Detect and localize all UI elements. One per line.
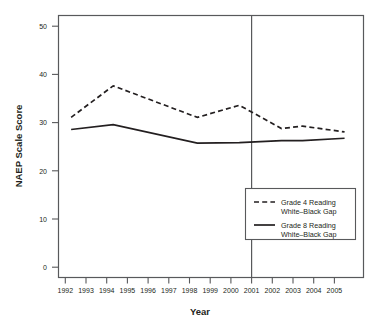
line-chart: 50 40 30 20 10 0 NAEP Scale Score 1992 1… (0, 0, 384, 330)
x-tick-label-2000: 2000 (223, 287, 239, 294)
x-tick-label-2002: 2002 (265, 287, 281, 294)
legend-label-grade-4-line1: Grade 4 Reading (281, 198, 336, 207)
legend-label-grade-8-line1: Grade 8 Reading (281, 221, 336, 230)
y-tick-label-40: 40 (39, 71, 47, 78)
y-tick-label-10: 10 (39, 216, 47, 223)
legend-label-grade-8-line2: White–Black Gap (281, 230, 337, 239)
x-tick-label-1995: 1995 (120, 287, 136, 294)
y-axis-title: NAEP Scale Score (13, 105, 24, 188)
x-tick-label-1998: 1998 (182, 287, 198, 294)
x-tick-label-2001: 2001 (244, 287, 260, 294)
x-axis-ticks (65, 278, 334, 284)
x-tick-label-1993: 1993 (78, 287, 94, 294)
x-tick-label-1992: 1992 (58, 287, 74, 294)
y-tick-label-30: 30 (39, 119, 47, 126)
x-tick-label-1999: 1999 (202, 287, 218, 294)
x-tick-label-2005: 2005 (327, 287, 343, 294)
chart-container: 50 40 30 20 10 0 NAEP Scale Score 1992 1… (0, 0, 384, 330)
y-axis-ticks (52, 26, 59, 267)
x-tick-label-1994: 1994 (99, 287, 115, 294)
x-tick-label-2004: 2004 (306, 287, 322, 294)
legend-label-grade-4-line2: White–Black Gap (281, 207, 337, 216)
x-tick-label-2003: 2003 (285, 287, 301, 294)
y-tick-label-0: 0 (43, 264, 47, 271)
y-tick-label-50: 50 (39, 23, 47, 30)
legend: Grade 4 Reading White–Black Gap Grade 8 … (246, 189, 356, 240)
x-tick-label-1996: 1996 (140, 287, 156, 294)
x-axis-title: Year (190, 306, 210, 317)
y-tick-label-20: 20 (39, 168, 47, 175)
x-tick-label-1997: 1997 (161, 287, 177, 294)
